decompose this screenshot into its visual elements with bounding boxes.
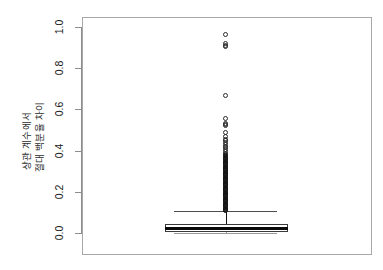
outlier-point [223, 32, 228, 37]
outlier-point [223, 208, 228, 213]
y-tick-label: 0.2 [53, 177, 65, 207]
y-tick-label: 0.8 [53, 53, 65, 83]
y-tick-label: 0.4 [53, 136, 65, 166]
lower-whisker-cap [174, 233, 278, 234]
outlier-point [223, 44, 228, 49]
plot-area [82, 17, 372, 255]
y-tick-label: 0.6 [53, 94, 65, 124]
y-tick-mark [75, 151, 81, 152]
y-tick-mark [75, 27, 81, 28]
median-line [165, 227, 288, 230]
y-tick-mark [75, 68, 81, 69]
y-tick-mark [75, 109, 81, 110]
boxplot-figure: 상관 계수에서 절대 백분율 차이 0.0 0.2 0.4 0.6 0.8 1.… [0, 0, 383, 270]
y-axis-title-line-2: 절대 백분율 차이 [35, 102, 45, 172]
y-axis-title-line-1: 상관 계수에서 [22, 112, 32, 170]
y-tick-mark [75, 233, 81, 234]
outlier-point [223, 123, 228, 128]
outlier-point [223, 93, 228, 98]
y-tick-label: 1.0 [53, 12, 65, 42]
y-axis-title: 상관 계수에서 절대 백분율 차이 [0, 0, 46, 270]
y-tick-mark [75, 192, 81, 193]
y-tick-label: 0.0 [53, 218, 65, 248]
